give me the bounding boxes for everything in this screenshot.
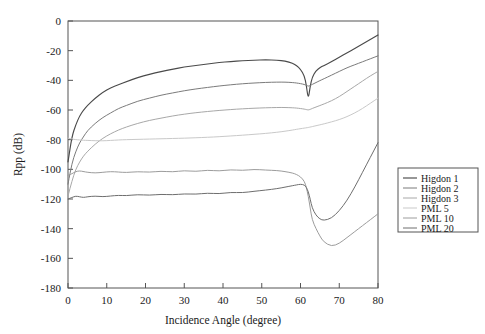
x-tick-label: 40 [218,294,230,306]
y-tick-label: -20 [46,45,61,57]
curve-pml-10 [68,170,378,246]
data-curves [68,35,378,245]
y-axis-title: Rpp (dB) [12,133,25,176]
axis-tickmarks [68,21,378,288]
y-tick-label: 0 [56,15,62,27]
y-tick-label: -60 [46,104,61,116]
y-tick-label: -140 [41,223,62,235]
chart-svg: 0-20-40-60-80-100-120-140-160-180 010203… [0,0,485,334]
curve-pml-20 [68,143,378,220]
y-axis-tick-labels: 0-20-40-60-80-100-120-140-160-180 [41,15,62,294]
x-tick-label: 60 [295,294,307,306]
x-tick-label: 0 [65,294,71,306]
y-tick-label: -100 [41,163,62,175]
plot-frame [68,21,378,288]
chart-legend: Higdon 1Higdon 2Higdon 3PML 5PML 10PML 2… [398,168,478,234]
x-axis-tick-labels: 01020304050607080 [65,294,384,306]
curve-higdon-3 [68,71,378,196]
x-tick-label: 80 [373,294,385,306]
y-tick-label: -160 [41,252,62,264]
y-tick-label: -40 [46,74,61,86]
legend-label: PML 20 [421,223,454,234]
y-tick-label: -120 [41,193,62,205]
curve-higdon-1 [68,35,378,162]
x-axis-title: Incidence Angle (degree) [165,314,281,327]
curve-higdon-2 [68,56,378,184]
x-tick-label: 50 [256,294,268,306]
chart-figure: 0-20-40-60-80-100-120-140-160-180 010203… [0,0,485,334]
y-tick-label: -80 [46,134,61,146]
curve-pml-5 [68,98,378,141]
x-tick-label: 10 [101,294,113,306]
x-tick-label: 70 [334,294,346,306]
x-tick-label: 20 [140,294,152,306]
y-tick-label: -180 [41,282,62,294]
x-tick-label: 30 [179,294,191,306]
